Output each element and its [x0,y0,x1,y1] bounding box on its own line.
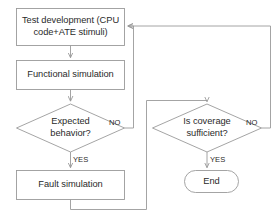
edge-faultsim-to-coverage [71,101,208,210]
flowchart-canvas: Test development (CPU code+ATE stimuli) … [0,0,280,222]
edge-label-expected-behavior-no: NO [109,118,120,127]
edge-label-expected-behavior-yes: YES [73,155,88,164]
node-end-shape [185,171,239,193]
node-coverage-sufficient-shape [153,104,262,152]
edge-expected-no-to-testdev [125,26,134,128]
flowchart-graphics [0,0,280,222]
node-expected-behavior-shape [17,104,125,152]
node-functional-simulation-shape [17,61,125,90]
edge-label-coverage-yes: YES [210,155,225,164]
node-fault-simulation-shape [17,171,125,200]
edge-label-coverage-no: NO [246,118,257,127]
node-test-development-shape [17,9,125,46]
edge-coverage-no-to-testdev [128,26,271,128]
